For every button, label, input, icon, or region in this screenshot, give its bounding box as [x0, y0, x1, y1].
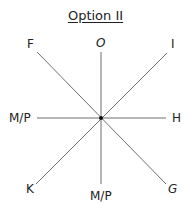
- label-top-right: I: [171, 38, 175, 50]
- label-top-left: F: [27, 38, 34, 50]
- center-point: [99, 116, 103, 120]
- label-right: H: [172, 112, 181, 124]
- label-left: M/P: [9, 112, 31, 124]
- label-top: O: [96, 37, 105, 49]
- label-bottom-left: K: [26, 183, 34, 195]
- axis-diagram: [0, 0, 191, 210]
- label-bottom: M/P: [90, 190, 112, 202]
- label-bottom-right: G: [168, 183, 177, 195]
